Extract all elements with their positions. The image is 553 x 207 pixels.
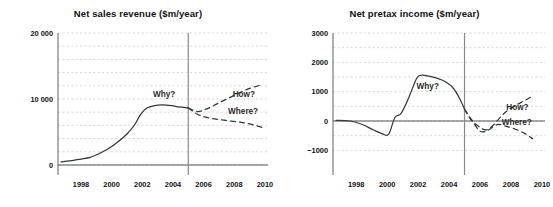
annotation-how: How? [233, 90, 255, 99]
y-axis-tick-label: 2000 [312, 58, 328, 67]
x-axis-tick-label: 2006 [195, 180, 211, 189]
x-axis-tick-label: 2008 [226, 180, 242, 189]
annotation-why: Why? [153, 90, 175, 99]
x-axis-tick-label: 2004 [165, 180, 182, 189]
x-axis-tick-label: 2008 [503, 180, 519, 189]
chart-panel-net-sales-revenue: Net sales revenue ($m/year) 010 00020 00… [0, 0, 276, 207]
y-axis-tick-label: −1000 [307, 146, 328, 155]
chart-panel-net-pretax-income: Net pretax income ($m/year) −10000100020… [276, 0, 553, 207]
plot-area-right: −100001000200030001998200020022004200620… [276, 0, 553, 207]
annotation-why: Why? [417, 82, 439, 91]
annotation-how: How? [506, 103, 528, 112]
y-axis-tick-label: 3000 [312, 29, 328, 38]
x-axis-tick-label: 2002 [410, 180, 426, 189]
x-axis-tick-label: 2006 [472, 180, 488, 189]
y-axis-tick-label: 0 [49, 161, 53, 170]
x-axis-tick-label: 1998 [348, 180, 364, 189]
annotation-where: Where? [228, 107, 258, 116]
y-axis-tick-label: 1000 [312, 87, 328, 96]
x-axis-tick-label: 2010 [257, 180, 273, 189]
x-axis-tick-label: 2004 [441, 180, 458, 189]
x-axis-tick-label: 2000 [103, 180, 119, 189]
x-axis-tick-label: 2002 [134, 180, 150, 189]
y-axis-tick-label: 0 [324, 117, 328, 126]
series-line-history [336, 75, 464, 135]
y-axis-tick-label: 20 000 [30, 29, 53, 38]
plot-area-left: 010 00020 000199820002002200420062008201… [0, 0, 276, 207]
x-axis-tick-label: 2010 [534, 180, 550, 189]
x-axis-tick-label: 1998 [73, 180, 89, 189]
series-line-history [61, 105, 188, 162]
annotation-where: Where? [502, 118, 532, 127]
x-axis-tick-label: 2000 [379, 180, 395, 189]
y-axis-tick-label: 10 000 [30, 95, 53, 104]
dual-chart-figure: Net sales revenue ($m/year) 010 00020 00… [0, 0, 553, 207]
